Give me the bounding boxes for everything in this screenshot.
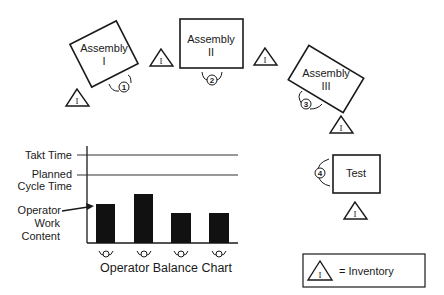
- cell-layout-diagram: Assembly I 1 Assembly II 2 Assembly III …: [0, 0, 444, 295]
- operator-label-line2: Work: [35, 217, 61, 229]
- station-numeral: II: [208, 46, 214, 58]
- operator-glyph-icon: [174, 251, 188, 257]
- operator-label-line3: Content: [21, 230, 60, 242]
- station-name: Assembly: [302, 67, 350, 79]
- arrow-line: [62, 207, 88, 211]
- operator-glyph-icon: [212, 251, 226, 257]
- station-test: Test: [333, 155, 380, 193]
- planned-label-line1: Planned: [32, 168, 72, 180]
- chart-title: Operator Balance Chart: [100, 261, 233, 275]
- operator-label-line1: Operator: [18, 204, 62, 216]
- operator-4-icon: 4: [315, 159, 330, 186]
- operator-number: 2: [210, 76, 215, 85]
- planned-label-line2: Cycle Time: [18, 180, 72, 192]
- inventory-triangle-icon: I: [150, 49, 173, 66]
- station-assembly-3: Assembly III: [288, 43, 365, 113]
- bar-operator-3: [171, 213, 191, 243]
- operator-2-icon: 2: [202, 72, 222, 85]
- svg-text:I: I: [76, 96, 79, 106]
- operator-glyph-icon: [137, 251, 151, 257]
- operator-number: 4: [318, 169, 323, 178]
- operator-number: 1: [122, 83, 127, 92]
- station-name: Test: [346, 167, 366, 179]
- operator-glyph-icon: [99, 251, 113, 257]
- svg-text:I: I: [160, 56, 163, 66]
- svg-text:I: I: [319, 270, 322, 280]
- station-numeral: III: [321, 80, 330, 92]
- inventory-triangle-icon: I: [66, 89, 89, 106]
- legend-label: = Inventory: [339, 265, 394, 277]
- takt-time-label: Takt Time: [25, 149, 72, 161]
- bar-operator-1: [96, 204, 115, 243]
- arrow-head-icon: [86, 203, 94, 210]
- station-numeral: I: [102, 55, 105, 67]
- station-assembly-2: Assembly II: [180, 19, 243, 68]
- svg-text:I: I: [264, 55, 267, 65]
- inventory-triangle-icon: I: [254, 48, 277, 65]
- station-name: Assembly: [80, 42, 128, 54]
- station-assembly-1: Assembly I: [70, 20, 139, 87]
- legend: I = Inventory: [303, 254, 425, 287]
- inventory-triangle-icon: I: [330, 116, 353, 133]
- svg-text:I: I: [340, 123, 343, 133]
- inventory-triangle-icon: I: [344, 202, 367, 219]
- svg-text:I: I: [354, 209, 357, 219]
- bar-operator-2: [134, 194, 153, 243]
- bar-operator-4: [209, 213, 229, 243]
- operator-balance-chart: Takt Time Planned Cycle Time Operator Wo…: [18, 146, 238, 275]
- station-name: Assembly: [187, 33, 235, 45]
- operator-number: 3: [304, 100, 309, 109]
